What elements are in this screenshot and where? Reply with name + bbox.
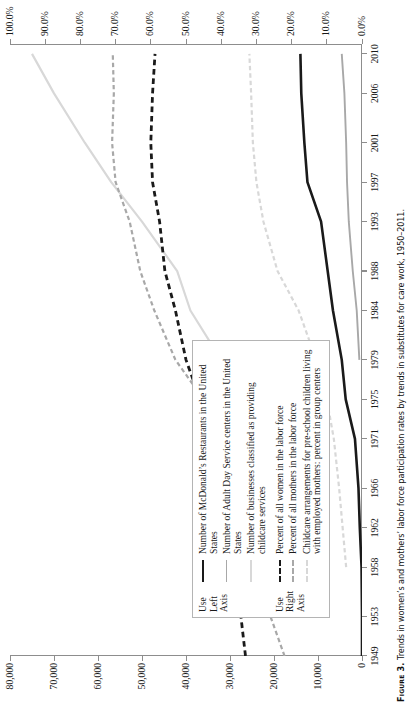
figure-caption-text: Trends in women’s and mothers’ labor for…: [396, 209, 406, 660]
legend-line-swatch-icon: [222, 560, 233, 582]
left-axis-tick-label: 70,000: [48, 663, 59, 708]
tick-mark: [362, 359, 367, 360]
tick-mark: [186, 656, 187, 661]
tick-mark: [54, 656, 55, 661]
right-axis-tick-label: 20.0%: [285, 0, 296, 36]
tick-mark: [291, 39, 292, 44]
legend-line-swatch-icon: [198, 560, 209, 582]
tick-mark: [98, 656, 99, 661]
legend-entries: Percent of all women in the labor forceP…: [275, 347, 323, 582]
legend-item-label: Percent of all women in the labor force: [275, 405, 286, 554]
legend-group-left-axis: UseLeftAxisNumber of McDonald’s Restaura…: [198, 347, 268, 612]
year-tick-label: 1997: [369, 165, 380, 199]
right-axis-tick-label: 50.0%: [180, 0, 191, 36]
right-axis-tick-label: 100.0%: [4, 0, 15, 36]
figure-label: Figure 3.: [396, 662, 406, 702]
legend-item[interactable]: Number of businesses classified as provi…: [246, 347, 267, 582]
year-tick-label: 2001: [369, 126, 380, 160]
tick-mark: [362, 438, 367, 439]
year-tick-label: 1966: [369, 471, 380, 505]
left-axis-tick-label: 40,000: [180, 663, 191, 708]
tick-mark: [362, 93, 367, 94]
tick-mark: [274, 656, 275, 661]
legend-line-swatch-icon: [302, 560, 313, 582]
right-axis-tick-label: 30.0%: [250, 0, 261, 36]
left-axis-tick-label: 10,000: [312, 663, 323, 708]
tick-mark: [362, 655, 367, 656]
tick-mark: [256, 39, 257, 44]
tick-mark: [362, 616, 367, 617]
tick-mark: [142, 656, 143, 661]
year-tick-label: 1988: [369, 254, 380, 288]
left-axis-tick-label: 50,000: [136, 663, 147, 708]
legend-axis-note-line: Axis: [219, 582, 230, 612]
legend-axis-note-line: Use: [275, 582, 286, 612]
tick-mark: [362, 399, 367, 400]
year-tick-label: 1958: [369, 550, 380, 584]
right-axis-tick-label: 90.0%: [39, 0, 50, 36]
left-axis-tick-label: 0: [356, 663, 367, 708]
legend-item[interactable]: Childcare arrangements for pre-school ch…: [302, 347, 323, 582]
tick-mark: [45, 39, 46, 44]
legend-item[interactable]: Number of Adult Day Service centers in t…: [222, 347, 243, 582]
tick-mark: [362, 310, 367, 311]
legend-axis-note: UseRightAxis: [275, 582, 307, 612]
tick-mark: [115, 39, 116, 44]
legend-entries: Number of McDonald’s Restaurants in the …: [198, 347, 268, 582]
year-tick-label: 2010: [369, 37, 380, 71]
tick-mark: [10, 39, 11, 44]
year-tick-label: 1962: [369, 511, 380, 545]
year-tick-label: 1975: [369, 382, 380, 416]
legend-item-label: Childcare arrangements for pre-school ch…: [302, 347, 323, 554]
series-line-1: [342, 54, 360, 360]
left-axis-tick-label: 20,000: [268, 663, 279, 708]
tick-mark: [221, 39, 222, 44]
right-axis-tick-label: 40.0%: [215, 0, 226, 36]
figure-stage: UseLeftAxisNumber of McDonald’s Restaura…: [0, 0, 411, 710]
legend-item[interactable]: Percent of all women in the labor force: [275, 347, 286, 582]
tick-mark: [362, 221, 367, 222]
year-tick-label: 1984: [369, 294, 380, 328]
tick-mark: [362, 53, 367, 54]
right-axis-tick-label: 80.0%: [74, 0, 85, 36]
tick-mark: [326, 39, 327, 44]
legend-axis-note-line: Right: [285, 582, 296, 612]
year-tick-label: 2006: [369, 76, 380, 110]
legend-axis-note-line: Use: [198, 582, 209, 612]
tick-mark: [362, 527, 367, 528]
tick-mark: [186, 39, 187, 44]
chart-legend: UseLeftAxisNumber of McDonald’s Restaura…: [192, 340, 330, 618]
right-axis-tick-label: 60.0%: [144, 0, 155, 36]
tick-mark: [362, 270, 367, 271]
legend-line-swatch-icon: [275, 560, 286, 582]
right-axis-tick-label: 70.0%: [109, 0, 120, 36]
legend-item-label: Percent of all mothers in the labor forc…: [288, 403, 299, 554]
tick-mark: [362, 567, 367, 568]
right-axis-tick-label: 0.0%: [356, 0, 367, 36]
legend-line-swatch-icon: [246, 560, 257, 582]
legend-item-label: Number of Adult Day Service centers in t…: [222, 347, 243, 554]
tick-mark: [362, 656, 363, 661]
legend-line-swatch-icon: [288, 560, 299, 582]
year-tick-label: 1949: [369, 639, 380, 673]
left-axis-tick-label: 30,000: [224, 663, 235, 708]
tick-mark: [150, 39, 151, 44]
tick-mark: [362, 39, 363, 44]
tick-mark: [362, 142, 367, 143]
left-axis-tick-label: 60,000: [92, 663, 103, 708]
right-axis-tick-label: 10.0%: [320, 0, 331, 36]
legend-axis-note-line: Axis: [296, 582, 307, 612]
legend-axis-note: UseLeftAxis: [198, 582, 230, 612]
year-tick-label: 1979: [369, 343, 380, 377]
tick-mark: [318, 656, 319, 661]
year-tick-label: 1971: [369, 422, 380, 456]
tick-mark: [362, 488, 367, 489]
year-tick-label: 1953: [369, 600, 380, 634]
legend-group-right-axis: UseRightAxisPercent of all women in the …: [275, 347, 323, 612]
legend-item-label: Number of businesses classified as provi…: [246, 347, 267, 554]
tick-mark: [362, 182, 367, 183]
tick-mark: [10, 656, 11, 661]
year-tick-label: 1993: [369, 205, 380, 239]
legend-item[interactable]: Number of McDonald’s Restaurants in the …: [198, 347, 219, 582]
legend-item[interactable]: Percent of all mothers in the labor forc…: [288, 347, 299, 582]
